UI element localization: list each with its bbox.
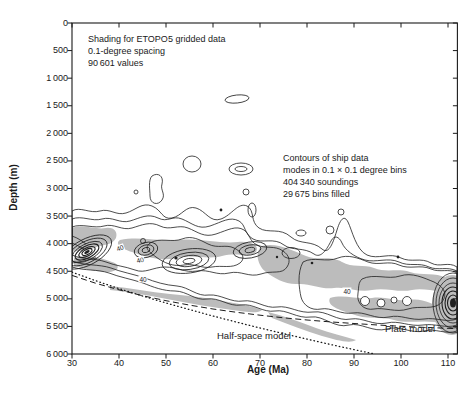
x-tick-label: 60 — [198, 358, 228, 369]
contours-annotation-line: Contours of ship data — [283, 152, 407, 164]
ship-contours-layer — [57, 94, 473, 333]
contours-annotation-line: modes in 0.1 × 0.1 degree bins — [283, 164, 407, 176]
shading-annotation-line: 0.1-degree spacing — [88, 45, 225, 57]
contour-level-label: 40 — [138, 276, 147, 283]
shading-annotation-line: 90 601 values — [88, 57, 225, 69]
contours-annotation-line: 29 675 bins filled — [283, 188, 407, 200]
x-tick-label: 110 — [433, 358, 463, 369]
shading-annotation: Shading for ETOPO5 gridded data 0.1-degr… — [88, 33, 225, 69]
contours-annotation-line: 404 340 soundings — [283, 176, 407, 188]
x-tick-label: 30 — [57, 358, 87, 369]
x-tick-label: 100 — [386, 358, 416, 369]
y-tick-label: 6 000 — [24, 349, 68, 360]
contours-annotation: Contours of ship data modes in 0.1 × 0.1… — [283, 152, 407, 200]
y-tick-label: 2 500 — [24, 155, 68, 166]
x-tick-label: 70 — [245, 358, 275, 369]
y-tick-label: 3 500 — [24, 211, 68, 222]
depth-vs-age-figure: Shading for ETOPO5 gridded data 0.1-degr… — [0, 0, 476, 396]
x-tick-label: 90 — [339, 358, 369, 369]
y-tick-label: 1 500 — [24, 100, 68, 111]
half-space-model-label: Half-space model — [217, 330, 291, 341]
y-tick-label: 500 — [24, 45, 68, 56]
contour-level-label: 40 — [342, 288, 351, 295]
y-tick-label: 0 — [24, 18, 68, 29]
x-tick-label: 50 — [151, 358, 181, 369]
plate-model-label: Plate model — [385, 323, 435, 334]
x-tick-label: 40 — [104, 358, 134, 369]
y-tick-label: 4 500 — [24, 266, 68, 277]
y-tick-label: 1 000 — [24, 73, 68, 84]
y-tick-label: 5 500 — [24, 321, 68, 332]
y-axis-title: Depth (m) — [8, 128, 19, 248]
y-tick-label: 5 000 — [24, 293, 68, 304]
x-tick-label: 80 — [292, 358, 322, 369]
y-tick-label: 3 000 — [24, 183, 68, 194]
y-tick-label: 4 000 — [24, 238, 68, 249]
shading-annotation-line: Shading for ETOPO5 gridded data — [88, 33, 225, 45]
y-tick-label: 2 000 — [24, 128, 68, 139]
